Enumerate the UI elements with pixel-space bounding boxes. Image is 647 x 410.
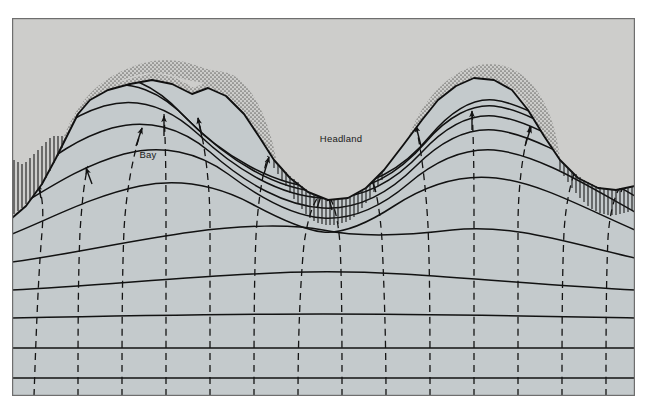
figure-frame: Bay Headland [12,18,635,396]
wave-refraction-diagram: Bay Headland [12,18,635,396]
label-headland: Headland [320,133,362,144]
label-bay: Bay [140,149,157,160]
figure-page: { "figure": { "title": "Wave refraction … [0,0,647,410]
